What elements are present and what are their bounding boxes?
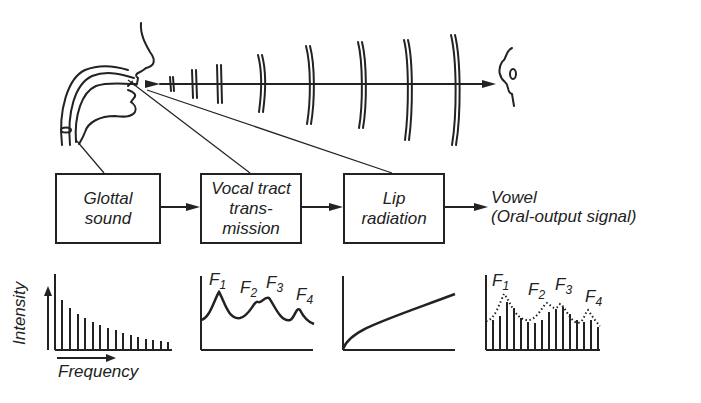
frequency-axis-label: Frequency — [58, 362, 138, 382]
vocal-tract-outer — [61, 66, 128, 145]
chin-profile — [79, 90, 136, 144]
glottal-spectrum — [48, 274, 172, 358]
output-formant-f1: F1 — [492, 272, 509, 295]
formant-f4: F4 — [296, 286, 313, 309]
lip-radiation-block: Lip radiation — [343, 173, 445, 244]
vowel-label: Vowel — [491, 188, 537, 208]
output-formant-f2: F2 — [528, 281, 545, 304]
oral-output-label: (Oral-output signal) — [491, 207, 637, 227]
output-formant-f3: F3 — [555, 276, 572, 299]
vocal-tract-block: Vocal tract trans- mission — [200, 173, 302, 244]
glottal-sound-block: Glottal sound — [55, 173, 161, 244]
lip-radiation-curve — [343, 276, 455, 350]
formant-f3: F3 — [266, 274, 283, 297]
formant-f1: F1 — [209, 271, 226, 294]
intensity-axis-label: Intensity — [10, 282, 30, 345]
ear-icon — [499, 48, 514, 106]
formant-f2: F2 — [240, 279, 257, 302]
output-formant-f4: F4 — [585, 288, 602, 311]
